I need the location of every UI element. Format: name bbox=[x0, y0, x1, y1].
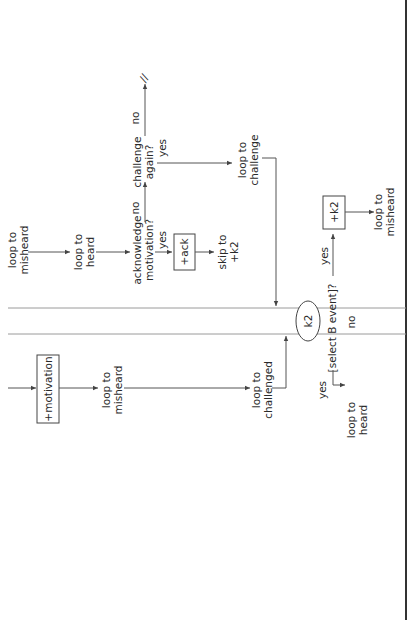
node-loop-misheard-right: loop to misheard bbox=[372, 188, 396, 237]
svg-text:yes: yes bbox=[316, 381, 328, 399]
diagram-canvas: loop to misheard loop to heard acknowled… bbox=[0, 0, 415, 620]
svg-text:yes: yes bbox=[318, 247, 330, 265]
edge-label-challenge-no: no bbox=[129, 111, 141, 124]
svg-text:k2: k2 bbox=[302, 315, 314, 328]
node-select-b-event: [select B event]? bbox=[326, 284, 338, 373]
svg-text:motivation?: motivation? bbox=[143, 219, 155, 281]
k2-box-label: +k2 bbox=[328, 201, 340, 223]
node-loop-to-challenged: loop to challenged bbox=[250, 361, 274, 419]
svg-text:no: no bbox=[345, 315, 357, 328]
svg-text://: // bbox=[137, 72, 151, 85]
svg-text:misheard: misheard bbox=[18, 226, 30, 275]
svg-text:loop to: loop to bbox=[345, 402, 357, 438]
svg-text:+ack: +ack bbox=[178, 238, 190, 266]
end-mark: // bbox=[137, 72, 151, 85]
svg-text:no: no bbox=[129, 201, 141, 214]
node-loop-heard-bottom: loop to heard bbox=[345, 402, 369, 438]
edge-label-ack-yes: yes bbox=[156, 231, 168, 249]
svg-text:+k2: +k2 bbox=[228, 241, 240, 263]
connector bbox=[272, 336, 286, 388]
k2-circle-label: k2 bbox=[302, 315, 314, 328]
node-loop-to-challenge: loop to challenge bbox=[236, 135, 260, 186]
svg-text:yes: yes bbox=[156, 139, 168, 157]
node-loop-heard-top: loop to heard bbox=[72, 234, 96, 270]
node-loop-misheard-mid: loop to misheard bbox=[100, 366, 124, 415]
svg-text:yes: yes bbox=[156, 231, 168, 249]
connector bbox=[262, 158, 276, 306]
svg-text:challenge: challenge bbox=[131, 137, 143, 188]
svg-text:no: no bbox=[129, 111, 141, 124]
edge-label-ack-no: no bbox=[129, 201, 141, 214]
edge-label-select-yes-bottom: yes bbox=[316, 381, 328, 399]
node-challenge-again: challenge again? bbox=[131, 137, 155, 188]
svg-text:misheard: misheard bbox=[112, 366, 124, 415]
svg-text:loop to: loop to bbox=[372, 194, 384, 230]
node-loop-misheard-top: loop to misheard bbox=[6, 226, 30, 275]
svg-text:challenge: challenge bbox=[248, 135, 260, 186]
svg-text:+motivation: +motivation bbox=[42, 356, 54, 421]
svg-text:loop to: loop to bbox=[100, 372, 112, 408]
svg-text:loop to: loop to bbox=[6, 232, 18, 268]
svg-text:challenged: challenged bbox=[262, 361, 274, 419]
edge-label-challenge-yes: yes bbox=[156, 139, 168, 157]
ack-box-label: +ack bbox=[178, 238, 190, 266]
svg-text:acknowledge: acknowledge bbox=[131, 215, 143, 284]
flow-diagram: loop to misheard loop to heard acknowled… bbox=[0, 0, 415, 620]
node-acknowledge-motivation: acknowledge motivation? bbox=[131, 215, 155, 284]
svg-text:loop to: loop to bbox=[236, 142, 248, 178]
svg-text:heard: heard bbox=[84, 237, 96, 267]
svg-text:again?: again? bbox=[143, 145, 155, 180]
node-skip-to-k2: skip to +k2 bbox=[216, 234, 240, 269]
svg-text:heard: heard bbox=[357, 405, 369, 435]
svg-text:[select B event]?: [select B event]? bbox=[326, 284, 338, 373]
svg-text:loop to: loop to bbox=[250, 372, 262, 408]
motivation-box-label: +motivation bbox=[42, 356, 54, 421]
svg-text:+k2: +k2 bbox=[328, 201, 340, 223]
edge-label-select-yes-top: yes bbox=[318, 247, 330, 265]
svg-text:loop to: loop to bbox=[72, 234, 84, 270]
edge-label-select-no: no bbox=[345, 315, 357, 328]
svg-text:skip to: skip to bbox=[216, 234, 228, 269]
svg-text:misheard: misheard bbox=[384, 188, 396, 237]
